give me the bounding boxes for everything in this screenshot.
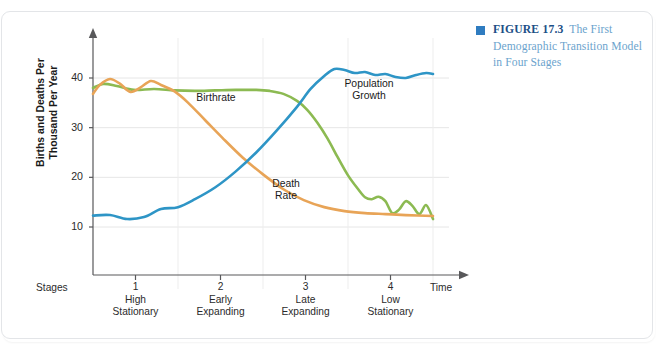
stage-name-line2: Stationary	[93, 306, 179, 319]
y-tick-label: 30	[61, 121, 83, 133]
figure-container: Births and Deaths Per Thousand Per Year …	[0, 0, 659, 358]
stage-name-line2: Expanding	[263, 306, 349, 319]
birthrate-curve-label: Birthrate	[181, 92, 251, 104]
death-rate-label-line2: Rate	[258, 190, 314, 202]
y-tick-label: 40	[61, 71, 83, 83]
y-tick-label: 20	[61, 170, 83, 182]
population-growth-label-line1: Population	[333, 78, 405, 90]
square-bullet-icon	[476, 26, 485, 35]
x-axis-stage-1: 1 High Stationary	[93, 281, 179, 319]
birthrate-label-text: Birthrate	[196, 92, 235, 103]
figure-caption-block: FIGURE 17.3 The First Demographic Transi…	[476, 22, 644, 72]
stage-name-line2: Expanding	[178, 306, 264, 319]
chart-axes	[89, 28, 469, 279]
population-growth-label-line2: Growth	[333, 90, 405, 102]
stage-number: 2	[178, 281, 264, 294]
death-rate-label-line1: Death	[258, 178, 314, 190]
stages-axis-label: Stages	[36, 282, 68, 293]
x-axis-stage-2: 2 Early Expanding	[178, 281, 264, 319]
chart-plot-area: Births and Deaths Per Thousand Per Year …	[0, 0, 480, 358]
y-tick-label: 10	[61, 220, 83, 232]
axis-ticks	[89, 78, 391, 280]
stage-name-line2: Stationary	[348, 306, 434, 319]
stage-name-line1: High	[93, 294, 179, 307]
stage-number: 4	[348, 281, 434, 294]
x-axis-stage-4: 4 Low Stationary	[348, 281, 434, 319]
x-axis-stage-3: 3 Late Expanding	[263, 281, 349, 319]
stage-name-line1: Low	[348, 294, 434, 307]
figure-caption-text: FIGURE 17.3 The First Demographic Transi…	[476, 22, 644, 72]
stage-number: 3	[263, 281, 349, 294]
stage-name-line1: Late	[263, 294, 349, 307]
population-growth-curve-label: Population Growth	[333, 78, 405, 103]
death-rate-curve-label: Death Rate	[258, 178, 314, 203]
stage-number: 1	[93, 281, 179, 294]
figure-number-label: FIGURE 17.3	[493, 23, 563, 36]
stage-name-line1: Early	[178, 294, 264, 307]
